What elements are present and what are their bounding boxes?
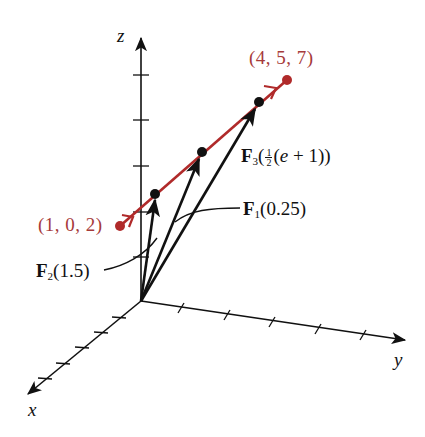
point-f1	[197, 147, 207, 157]
frac-denominator: 2	[265, 158, 272, 167]
x-axis-label: x	[28, 400, 36, 419]
start-point-label: (1, 0, 2)	[38, 215, 103, 234]
f2-label: F2(1.5)	[36, 261, 90, 282]
end-point-label: (4, 5, 7)	[249, 48, 314, 67]
x-axis	[28, 301, 141, 394]
z-axis-label: z	[117, 26, 124, 45]
f3-e: e	[280, 145, 288, 166]
f1-arg: (0.25)	[260, 198, 306, 219]
vector-f3	[141, 109, 255, 301]
leader-lines	[104, 208, 240, 270]
f3-rest: + 1))	[288, 145, 330, 166]
f2-symbol: F	[36, 260, 48, 281]
f3-open: (	[258, 145, 264, 166]
f3-label: F3(12(e + 1))	[241, 146, 331, 167]
f1-symbol: F	[243, 198, 255, 219]
start-point	[115, 221, 125, 231]
f3-symbol: F	[241, 145, 253, 166]
y-axis	[141, 301, 405, 340]
point-f2	[150, 189, 160, 199]
f2-arg: (1.5)	[53, 260, 89, 281]
f1-label: F1(0.25)	[243, 199, 306, 220]
end-point	[282, 75, 292, 85]
y-axis-label: y	[394, 350, 402, 369]
point-f3	[254, 97, 264, 107]
f3-fraction: 12	[265, 148, 272, 167]
